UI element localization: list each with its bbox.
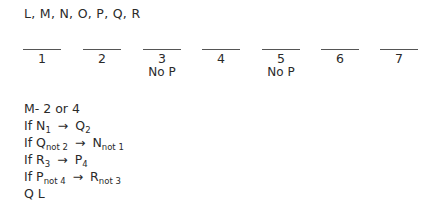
rule-consequent: N: [92, 135, 101, 150]
slot-note: No P: [142, 66, 182, 79]
slot-number: 4: [201, 52, 241, 66]
slot-number: 7: [379, 52, 419, 66]
blank-line: [202, 40, 240, 50]
rule-consequent-sub: not 3: [99, 176, 121, 186]
rule-4: If Pnot 4 → Rnot 3: [24, 168, 124, 185]
slot-3: 3 No P: [142, 40, 182, 79]
blank-line: [143, 40, 181, 50]
blank-line: [321, 40, 359, 50]
slot-note: No P: [261, 66, 301, 79]
slot-number: 2: [82, 52, 122, 66]
rule-2: If Qnot 2 → Nnot 1: [24, 134, 124, 151]
if-label: If: [24, 169, 32, 184]
rules-list: M- 2 or 4 If N1 → Q2 If Qnot 2 → Nnot 1 …: [24, 100, 124, 202]
slot-1: 1: [22, 40, 62, 66]
rule-antecedent: Q: [36, 135, 46, 150]
rule-m: M- 2 or 4: [24, 100, 124, 117]
slot-row: 1 2 3 No P 4 5 No P 6 7: [0, 40, 438, 90]
rule-antecedent-sub: not 4: [44, 176, 66, 186]
rule-3: If R3 → P4: [24, 151, 124, 168]
if-label: If: [24, 152, 32, 167]
slot-number: 5: [261, 52, 301, 66]
slot-number: 6: [320, 52, 360, 66]
blank-line: [380, 40, 418, 50]
rule-1: If N1 → Q2: [24, 117, 124, 134]
if-label: If: [24, 118, 32, 133]
slot-7: 7: [379, 40, 419, 66]
block-rule: Q L: [24, 185, 124, 202]
blank-line: [83, 40, 121, 50]
arrow-icon: →: [73, 169, 83, 184]
blank-line: [262, 40, 300, 50]
arrow-icon: →: [75, 135, 85, 150]
slot-5: 5 No P: [261, 40, 301, 79]
slot-4: 4: [201, 40, 241, 66]
rule-consequent-sub: not 1: [102, 142, 124, 152]
arrow-icon: →: [57, 152, 67, 167]
blank-line: [23, 40, 61, 50]
rule-consequent: R: [90, 169, 99, 184]
slot-2: 2: [82, 40, 122, 66]
slot-number: 1: [22, 52, 62, 66]
if-label: If: [24, 135, 32, 150]
slot-6: 6: [320, 40, 360, 66]
rule-antecedent: P: [36, 169, 44, 184]
slot-number: 3: [142, 52, 182, 66]
rule-antecedent: R: [36, 152, 45, 167]
arrow-icon: →: [58, 118, 68, 133]
variable-list: L, M, N, O, P, Q, R: [24, 6, 140, 21]
rule-consequent: Q: [75, 118, 85, 133]
